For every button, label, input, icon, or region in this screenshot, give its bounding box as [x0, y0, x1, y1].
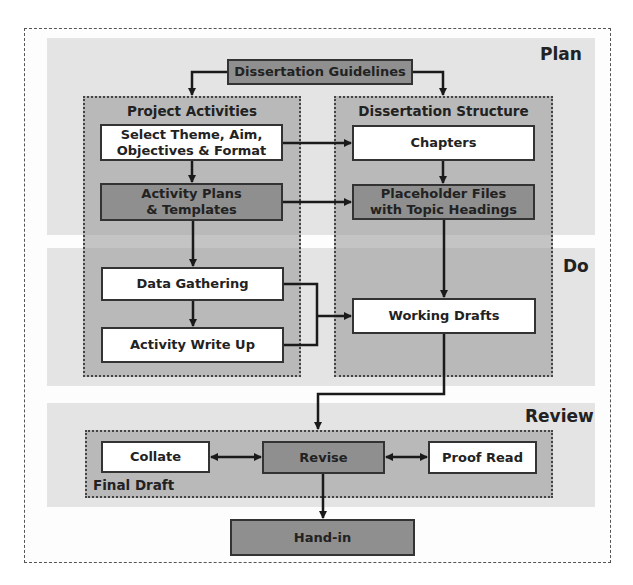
- bracket-activities-merge: [284, 284, 317, 345]
- arrow-guidelines-to-dissertation-structure: [413, 72, 443, 95]
- arrow-guidelines-to-project-activities: [192, 72, 227, 95]
- arrow-working-drafts-to-final-draft: [318, 334, 444, 429]
- connector-arrows: [0, 0, 633, 585]
